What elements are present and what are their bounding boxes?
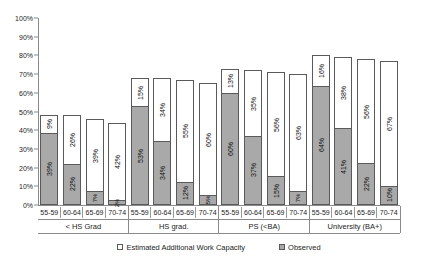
group-axis: < HS GradHS grad.PS (<BA)University (BA+…	[38, 220, 400, 233]
y-tick-label: 90%	[0, 33, 33, 40]
y-tick-label: 30%	[0, 145, 33, 152]
stacked-bar[interactable]: 34%34%	[153, 78, 171, 205]
bar-segment-capacity[interactable]: 67%	[381, 62, 397, 186]
bar-value-label: 35%	[249, 97, 256, 111]
bar-value-label: 39%	[91, 149, 98, 163]
bar-slot: 39%7%	[83, 18, 106, 205]
bar-slot: 56%22%	[355, 18, 378, 205]
stacked-bar[interactable]: 38%41%	[334, 57, 352, 205]
bar-value-label: 53%	[136, 149, 143, 163]
bar-segment-observed[interactable]: 64%	[313, 86, 329, 204]
bar-group: 13%60%35%37%56%15%63%7%	[219, 18, 310, 205]
bar-segment-capacity[interactable]: 56%	[268, 73, 284, 176]
bar-segment-capacity[interactable]: 39%	[87, 120, 103, 191]
category-label: 65-69	[174, 206, 197, 219]
bar-segment-capacity[interactable]: 55%	[177, 81, 193, 182]
bar-segment-observed[interactable]: 2%	[109, 200, 125, 204]
bar-group: 15%53%34%34%55%12%60%5%	[129, 18, 220, 205]
stacked-bar[interactable]: 42%2%	[108, 123, 126, 205]
bar-segment-observed[interactable]: 22%	[358, 163, 374, 204]
bar-value-label: 39%	[46, 162, 53, 176]
group-axis-underline	[38, 233, 400, 234]
bar-segment-observed[interactable]: 53%	[132, 106, 148, 204]
bar-value-label: 64%	[317, 138, 324, 152]
bar-slot: 13%60%	[219, 18, 242, 205]
bar-segment-capacity[interactable]: 42%	[109, 124, 125, 201]
y-tick-label: 80%	[0, 52, 33, 59]
legend-label-observed: Observed	[288, 243, 321, 252]
stacked-bar[interactable]: 39%7%	[86, 119, 104, 205]
bar-segment-capacity[interactable]: 26%	[64, 116, 80, 164]
bar-value-label: 26%	[68, 133, 75, 147]
bar-value-label: 37%	[249, 163, 256, 177]
bar-slot: 38%41%	[332, 18, 355, 205]
group-label: University (BA+)	[310, 220, 401, 233]
bar-segment-observed[interactable]: 7%	[290, 191, 306, 204]
bar-segment-capacity[interactable]: 34%	[154, 79, 170, 142]
bar-segment-observed[interactable]: 39%	[41, 133, 57, 204]
bar-value-label: 10%	[385, 188, 392, 202]
plot-area: 9%39%26%22%39%7%42%2%15%53%34%34%55%12%6…	[38, 18, 400, 205]
stacked-bar[interactable]: 60%5%	[199, 83, 217, 205]
y-tick-label: 60%	[0, 89, 33, 96]
y-tick-label: 0%	[0, 202, 33, 209]
stacked-bar[interactable]: 56%15%	[267, 72, 285, 205]
stacked-bar[interactable]: 16%64%	[312, 55, 330, 205]
bar-value-label: 55%	[182, 124, 189, 138]
bar-segment-observed[interactable]: 15%	[268, 176, 284, 204]
bar-slot: 55%12%	[174, 18, 197, 205]
bar-value-label: 67%	[385, 117, 392, 131]
bar-slot: 34%34%	[151, 18, 174, 205]
bar-slot: 15%53%	[129, 18, 152, 205]
category-label: 65-69	[264, 206, 287, 219]
bar-slot: 56%15%	[264, 18, 287, 205]
category-label: 60-64	[61, 206, 84, 219]
category-group: 55-5960-6465-6970-74	[38, 206, 129, 219]
bar-segment-observed[interactable]: 7%	[87, 191, 103, 204]
group-label: PS (<BA)	[219, 220, 310, 233]
bar-segment-observed[interactable]: 37%	[245, 136, 261, 204]
stacked-bar[interactable]: 15%53%	[131, 78, 149, 205]
bar-segment-observed[interactable]: 34%	[154, 141, 170, 204]
bar-segment-observed[interactable]: 10%	[381, 186, 397, 204]
bar-segment-observed[interactable]: 60%	[222, 93, 238, 204]
stacked-bar[interactable]: 55%12%	[176, 80, 194, 205]
bar-value-label: 56%	[363, 105, 370, 119]
bar-segment-observed[interactable]: 12%	[177, 182, 193, 204]
stacked-bar[interactable]: 63%7%	[289, 74, 307, 205]
bar-segment-observed[interactable]: 22%	[64, 164, 80, 204]
category-label: 65-69	[83, 206, 106, 219]
bar-value-label: 22%	[68, 177, 75, 191]
bar-segment-capacity[interactable]: 63%	[290, 75, 306, 191]
category-label: 70-74	[377, 206, 400, 219]
bar-segment-capacity[interactable]: 15%	[132, 79, 148, 107]
bar-segment-capacity[interactable]: 35%	[245, 71, 261, 135]
stacked-bar[interactable]: 67%10%	[380, 61, 398, 205]
stacked-bar[interactable]: 35%37%	[244, 70, 262, 205]
y-tick-label: 50%	[0, 108, 33, 115]
category-label: 60-64	[242, 206, 265, 219]
bar-value-label: 22%	[363, 177, 370, 191]
stacked-bar[interactable]: 13%60%	[221, 69, 239, 206]
category-label: 70-74	[287, 206, 310, 219]
category-group: 55-5960-6465-6970-74	[219, 206, 310, 219]
category-label: 55-59	[38, 206, 61, 219]
bar-segment-capacity[interactable]: 9%	[41, 116, 57, 132]
stacked-bar[interactable]: 26%22%	[63, 115, 81, 205]
bar-segment-capacity[interactable]: 16%	[313, 56, 329, 86]
bar-segment-observed[interactable]: 5%	[200, 195, 216, 204]
bar-segment-observed[interactable]: 41%	[335, 128, 351, 204]
stacked-bar[interactable]: 9%39%	[40, 115, 58, 205]
bar-group: 9%39%26%22%39%7%42%2%	[38, 18, 129, 205]
bar-segment-capacity[interactable]: 56%	[358, 60, 374, 163]
stacked-bar[interactable]: 56%22%	[357, 59, 375, 205]
category-label: 60-64	[151, 206, 174, 219]
legend-swatch-capacity-icon	[117, 244, 123, 250]
y-tick-label: 70%	[0, 71, 33, 78]
bar-segment-capacity[interactable]: 38%	[335, 58, 351, 128]
bar-segment-capacity[interactable]: 13%	[222, 70, 238, 94]
legend-item-observed: Observed	[279, 243, 321, 252]
group-label: HS grad.	[129, 220, 220, 233]
bar-segment-capacity[interactable]: 60%	[200, 84, 216, 194]
bar-value-label: 34%	[159, 166, 166, 180]
